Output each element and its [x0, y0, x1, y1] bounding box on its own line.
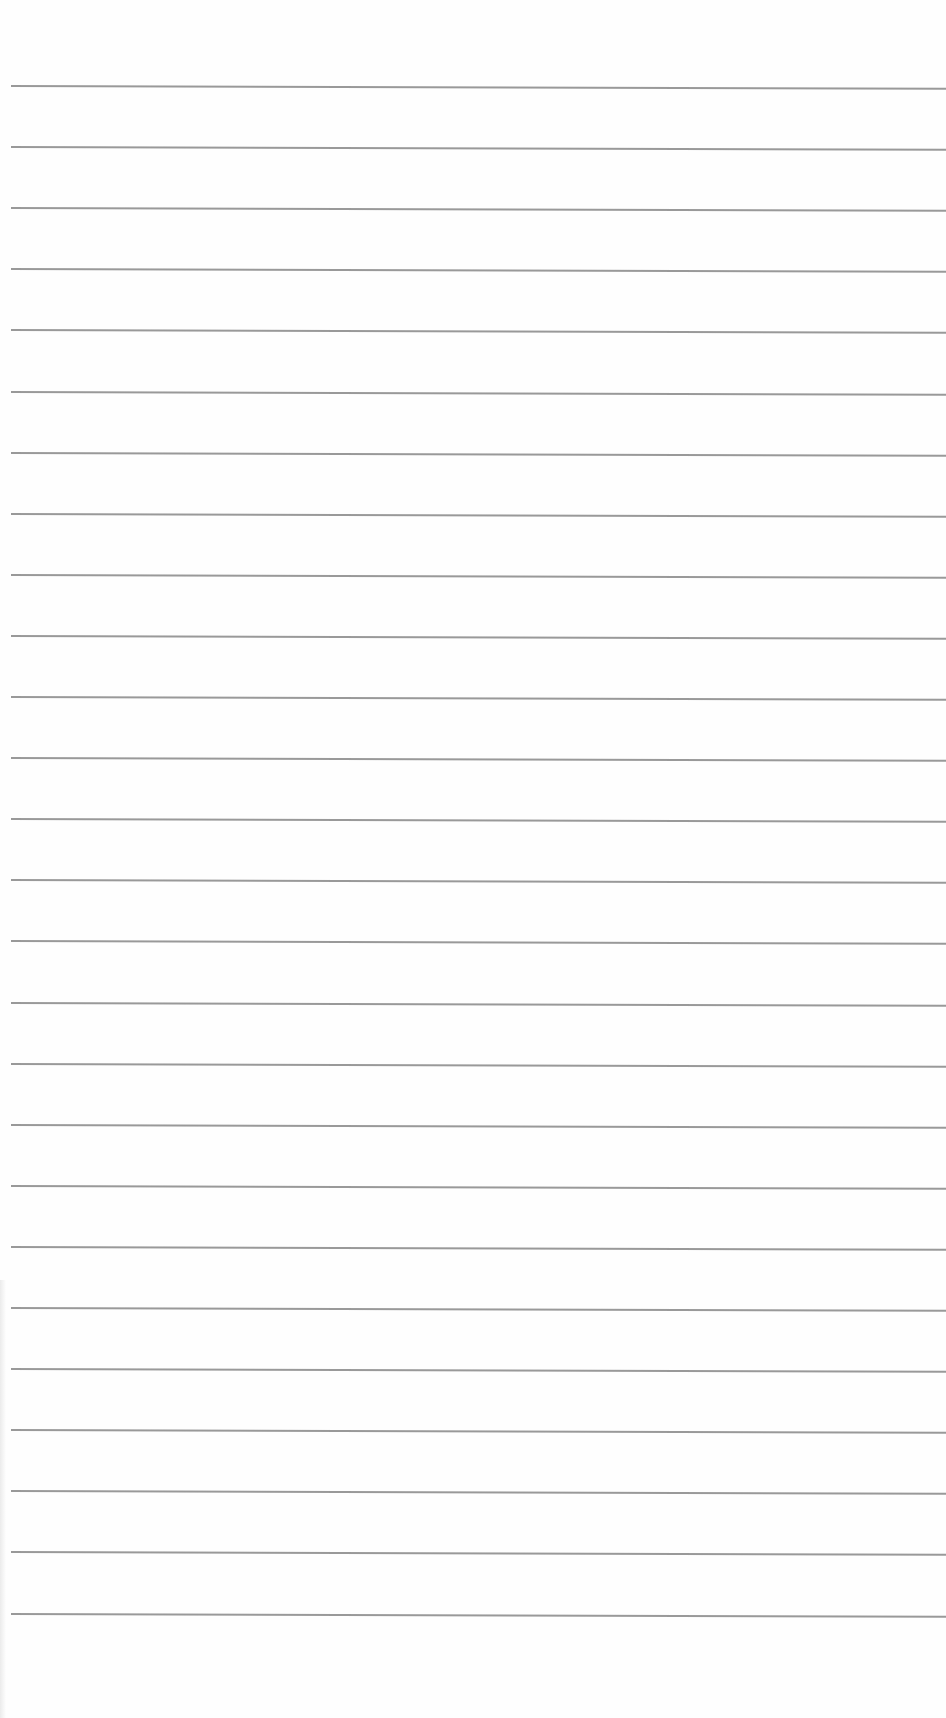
- ruled-line: [11, 574, 946, 579]
- ruled-line: [11, 207, 946, 212]
- ruled-line: [11, 1307, 946, 1312]
- ruled-line: [11, 146, 946, 151]
- ruled-line: [11, 1429, 946, 1434]
- ruled-line: [11, 818, 946, 823]
- ruled-line: [11, 757, 946, 762]
- ruled-line: [11, 452, 946, 457]
- ruled-line: [11, 1185, 946, 1190]
- ruled-line: [11, 1063, 946, 1068]
- ruled-line: [11, 268, 946, 273]
- ruled-line: [11, 940, 946, 945]
- ruled-line: [11, 1613, 946, 1618]
- ruled-line: [11, 391, 946, 396]
- ruled-line: [11, 1002, 946, 1007]
- ruled-line: [11, 1490, 946, 1495]
- page-edge-shadow: [0, 1280, 6, 1718]
- ruled-line: [11, 513, 946, 518]
- lined-paper-sheet: [0, 0, 946, 1718]
- ruled-line: [11, 1368, 946, 1373]
- ruled-line: [11, 696, 946, 701]
- ruled-line: [11, 1246, 946, 1251]
- ruled-line: [11, 85, 946, 90]
- ruled-line: [11, 635, 946, 640]
- ruled-line: [11, 1124, 946, 1129]
- ruled-line: [11, 329, 946, 334]
- ruled-line: [11, 879, 946, 884]
- ruled-line: [11, 1551, 946, 1556]
